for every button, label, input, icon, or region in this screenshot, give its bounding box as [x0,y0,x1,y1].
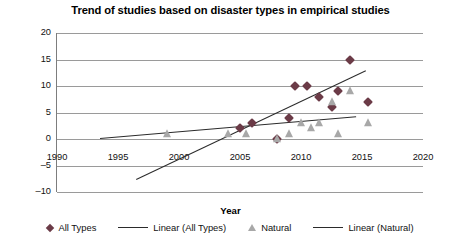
data-point-natural [328,97,336,105]
x-axis-label: Year [0,205,461,216]
gridline [57,113,423,114]
gridline [57,166,423,167]
x-tick-label-1995: 1995 [95,153,141,162]
data-point-natural [307,124,315,132]
data-point-natural [285,129,293,137]
legend-item-natural[interactable]: Natural [248,222,291,233]
y-tick-label-20: 20 [15,28,51,37]
legend-label: All Types [58,222,96,233]
chart-container: Trend of studies based on disaster types… [0,0,461,245]
x-tick-label-2015: 2015 [339,153,385,162]
y-tick-label-10: 10 [15,81,51,90]
data-point-all-types [345,55,355,65]
gridline [57,33,423,34]
legend-label: Linear (Natural) [348,222,413,233]
chart-legend: All TypesLinear (All Types)NaturalLinear… [0,222,461,233]
data-point-all-types [302,81,312,91]
gridline [57,192,423,193]
legend-item-linear-all-types[interactable]: Linear (All Types) [118,222,226,233]
line-icon [313,227,343,228]
data-point-natural [163,129,171,137]
y-tick-label-0: 0 [15,134,51,143]
data-point-natural [297,118,305,126]
chart-title: Trend of studies based on disaster types… [0,4,461,16]
x-tick-label-2000: 2000 [156,153,202,162]
legend-item-linear-natural[interactable]: Linear (Natural) [313,222,413,233]
legend-label: Linear (All Types) [153,222,226,233]
gridline [57,60,423,61]
x-tick-label-2010: 2010 [278,153,324,162]
x-tick-label-1990: 1990 [34,153,80,162]
data-point-natural [242,129,250,137]
data-point-natural [224,129,232,137]
x-tick-label-2020: 2020 [400,153,446,162]
y-tick-label--10: –10 [15,187,51,196]
data-point-natural [273,134,281,142]
data-point-natural [364,118,372,126]
plot-area: 20151050–5–10 19901995200020052010201520… [57,33,423,192]
data-point-all-types [333,86,343,96]
triangle-icon [248,224,256,231]
data-point-natural [334,129,342,137]
y-tick-label-15: 15 [15,55,51,64]
legend-label: Natural [261,222,291,233]
diamond-icon [46,223,54,231]
y-tick-label--5: –5 [15,161,51,170]
data-point-all-types [290,81,300,91]
x-tick-label-2005: 2005 [217,153,263,162]
gridline [57,139,423,140]
line-icon [118,227,148,228]
gridline [57,86,423,87]
y-tick-label-5: 5 [15,108,51,117]
legend-item-all-types[interactable]: All Types [47,222,96,233]
data-point-natural [346,87,354,95]
data-point-natural [315,118,323,126]
data-point-all-types [363,97,373,107]
